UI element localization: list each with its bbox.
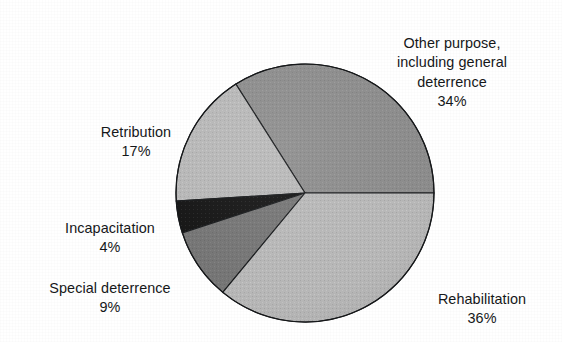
slice-label-special-deterrence-text: Special deterrence <box>49 280 170 296</box>
slice-label-special-deterrence-value: 9% <box>14 298 206 318</box>
slice-label-other-purpose: Other purpose, including general deterre… <box>358 14 546 131</box>
slice-label-rehabilitation-text: Rehabilitation <box>438 291 526 307</box>
pie-chart-figure: Other purpose, including general deterre… <box>0 0 562 342</box>
slice-label-rehabilitation: Rehabilitation 36% <box>412 270 552 342</box>
slice-label-retribution-text: Retribution <box>101 124 171 140</box>
slice-label-retribution: Retribution 17% <box>70 103 202 181</box>
slice-label-incapacitation-value: 4% <box>34 238 186 258</box>
slice-label-retribution-value: 17% <box>70 142 202 162</box>
slice-label-special-deterrence: Special deterrence 9% <box>14 259 206 337</box>
slice-label-rehabilitation-value: 36% <box>412 309 552 329</box>
slice-label-other-purpose-value: 34% <box>358 92 546 112</box>
slice-label-other-purpose-text: Other purpose, including general deterre… <box>397 35 507 90</box>
slice-label-incapacitation-text: Incapacitation <box>65 220 155 236</box>
